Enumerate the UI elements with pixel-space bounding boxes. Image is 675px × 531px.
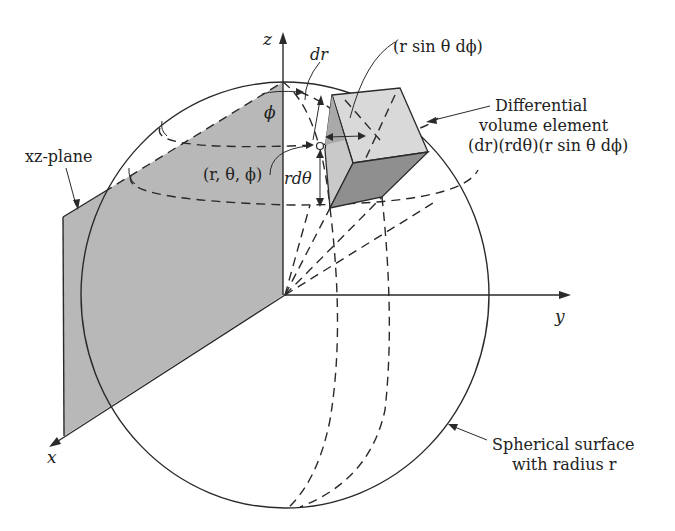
surface-label-line1: Spherical surface — [492, 435, 635, 454]
dr-label: dr — [310, 45, 329, 64]
volume-label-line3: (dr)(rdθ)(r sin θ dϕ) — [468, 136, 628, 155]
spherical-coordinates-diagram: z y x xz-plane ϕ dr (r sin θ dϕ) (r, θ, … — [0, 0, 675, 531]
xz-plane-left-edge — [63, 217, 64, 436]
x-axis-arrowhead — [49, 437, 61, 447]
xz-plane-region — [63, 82, 283, 436]
phi-arrowhead — [296, 88, 304, 96]
radial-line-1 — [285, 208, 330, 295]
z-axis-arrowhead — [279, 32, 287, 44]
dr-arrow — [313, 100, 320, 140]
y-axis-label: y — [554, 306, 565, 326]
phi-label: ϕ — [264, 102, 276, 122]
leader-xz-plane — [66, 168, 76, 205]
leader-surface — [452, 426, 487, 440]
dr-leader — [305, 62, 320, 100]
meridian-2 — [300, 197, 389, 507]
y-axis-arrowhead — [559, 291, 571, 299]
point-marker — [317, 143, 324, 150]
radial-line-2 — [285, 197, 382, 295]
r-dtheta-label: rdθ — [284, 169, 312, 188]
r-sin-theta-dphi-label: (r sin θ dϕ) — [393, 37, 483, 56]
point-label: (r, θ, ϕ) — [203, 165, 262, 184]
meridian-1 — [288, 208, 338, 508]
z-axis-label: z — [262, 29, 273, 49]
surface-label-line2: with radius r — [512, 455, 617, 474]
x-axis-label: x — [47, 447, 57, 467]
volume-label-line1: Differential — [495, 96, 587, 115]
volume-element-box — [325, 88, 428, 208]
xz-plane-label: xz-plane — [25, 147, 93, 166]
volume-label-line2: volume element — [478, 116, 609, 135]
